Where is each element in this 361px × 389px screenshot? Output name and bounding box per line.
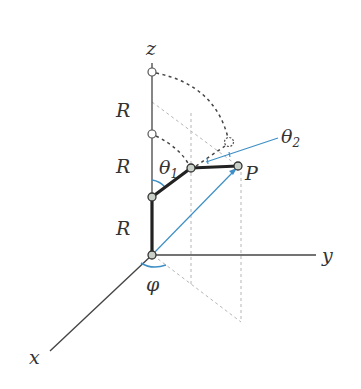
axes xyxy=(50,63,316,351)
link-label-middle: R xyxy=(115,155,130,177)
y-axis-label: y xyxy=(321,244,333,266)
theta1-label: θ1 xyxy=(159,156,178,181)
shoulder-joint xyxy=(148,193,156,201)
theta2-tick xyxy=(207,158,208,164)
x-axis xyxy=(50,255,152,351)
origin-joint xyxy=(148,251,156,259)
end-effector-P xyxy=(234,162,242,170)
phi-label: φ xyxy=(146,273,160,295)
phi-arc xyxy=(141,263,166,267)
theta2-label: θ2 xyxy=(281,125,300,150)
elbow-joint xyxy=(187,164,195,172)
position-vector xyxy=(152,171,234,255)
dotted-circle xyxy=(225,138,234,147)
z-top-circle xyxy=(148,68,156,76)
spherical-arm-diagram: z y x R R R θ1 θ2 P φ xyxy=(0,0,361,389)
z-mid-circle xyxy=(148,130,156,138)
rotation-arcs xyxy=(156,73,228,166)
theta2-tick2 xyxy=(229,152,230,157)
x-axis-label: x xyxy=(29,346,40,368)
link-label-top: R xyxy=(115,99,130,121)
point-P-label: P xyxy=(244,162,259,184)
link-label-bottom: R xyxy=(115,217,130,239)
z-axis-label: z xyxy=(145,37,157,59)
